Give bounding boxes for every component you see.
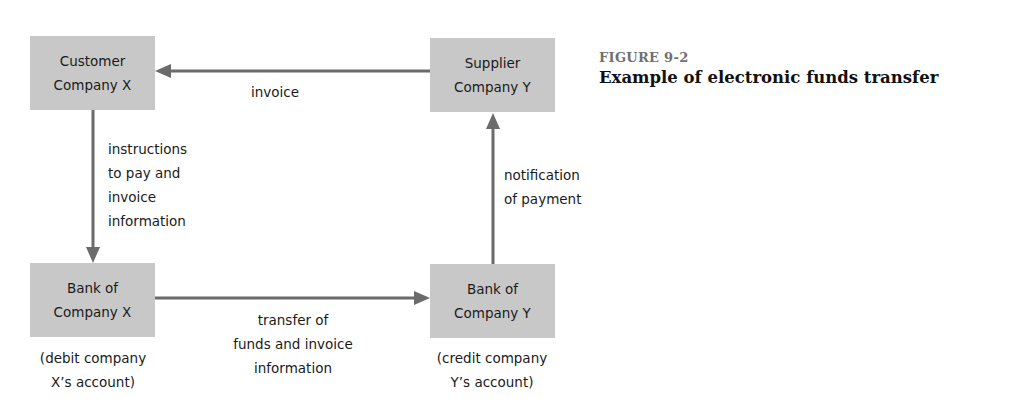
- edge-label-line: information: [108, 209, 187, 233]
- edge-label-line: instructions: [108, 137, 187, 161]
- edge-label-line: transfer of: [218, 308, 368, 332]
- edge-label-line: information: [218, 356, 368, 380]
- node-label-line: Company Y: [454, 301, 531, 325]
- arrow-notification: [486, 113, 500, 264]
- edge-label-line: of payment: [504, 187, 581, 211]
- edge-label-line: funds and invoice: [218, 332, 368, 356]
- edge-label-notification: notification of payment: [504, 163, 581, 211]
- node-label-line: Company X: [54, 73, 132, 97]
- edge-label-transfer: transfer of funds and invoice informatio…: [218, 308, 368, 380]
- note-debit-company-x: (debit company X’s account): [22, 346, 164, 394]
- node-bank-of-company-x: Bank of Company X: [30, 263, 155, 337]
- node-label-line: Company X: [54, 300, 132, 324]
- note-credit-company-y: (credit company Y’s account): [421, 346, 563, 394]
- note-line: X’s account): [22, 370, 164, 394]
- eft-diagram: Customer Company X Supplier Company Y Ba…: [0, 0, 1014, 404]
- edge-label-line: invoice: [240, 80, 310, 104]
- figure-number: FIGURE 9-2: [599, 49, 938, 67]
- arrow-transfer: [155, 291, 430, 305]
- node-label-line: Customer: [60, 49, 126, 73]
- edge-label-line: notification: [504, 163, 581, 187]
- note-line: Y’s account): [421, 370, 563, 394]
- arrow-instructions: [86, 110, 100, 263]
- note-line: (debit company: [22, 346, 164, 370]
- note-line: (credit company: [421, 346, 563, 370]
- node-label-line: Bank of: [467, 277, 518, 301]
- edge-label-line: to pay and: [108, 161, 187, 185]
- figure-title: Example of electronic funds transfer: [599, 67, 938, 89]
- arrow-invoice: [155, 64, 430, 78]
- node-bank-of-company-y: Bank of Company Y: [430, 264, 555, 338]
- node-label-line: Bank of: [67, 276, 118, 300]
- node-supplier-company-y: Supplier Company Y: [430, 38, 555, 112]
- figure-caption: FIGURE 9-2 Example of electronic funds t…: [599, 49, 938, 89]
- edge-label-line: invoice: [108, 185, 187, 209]
- node-customer-company-x: Customer Company X: [30, 36, 155, 110]
- edge-label-instructions: instructions to pay and invoice informat…: [108, 137, 187, 233]
- node-label-line: Company Y: [454, 75, 531, 99]
- node-label-line: Supplier: [465, 51, 521, 75]
- edge-label-invoice: invoice: [240, 80, 310, 104]
